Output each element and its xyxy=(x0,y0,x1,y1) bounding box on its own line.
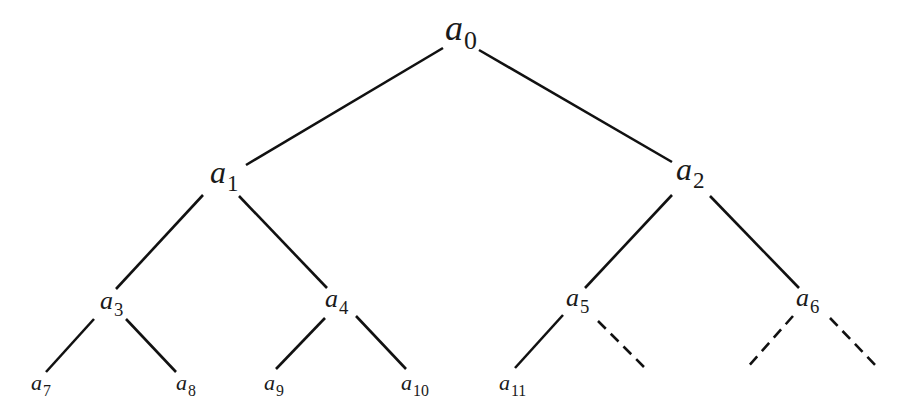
edge-a3-a8 xyxy=(126,319,176,372)
edge-a6-placeholder xyxy=(747,316,793,368)
node-label: a xyxy=(566,283,579,312)
node-subscript: 1 xyxy=(227,170,239,196)
edge-a2-a6 xyxy=(710,196,799,288)
node-a6: a6 xyxy=(796,285,819,311)
node-subscript: 7 xyxy=(43,382,51,399)
node-label: a xyxy=(31,370,42,395)
node-subscript: 4 xyxy=(339,297,348,318)
node-label: a xyxy=(210,154,226,190)
node-a10: a10 xyxy=(401,372,429,394)
edge-a6-placeholder xyxy=(830,318,878,368)
edge-a0-a2 xyxy=(479,50,672,162)
node-label: a xyxy=(401,370,412,395)
node-label: a xyxy=(796,283,809,312)
node-label: a xyxy=(676,151,692,187)
tree-edges xyxy=(0,0,908,416)
edge-a1-a3 xyxy=(116,195,203,289)
node-a5: a5 xyxy=(566,285,589,311)
node-a0: a0 xyxy=(445,10,477,46)
edge-a5-a11 xyxy=(515,315,563,368)
edge-a2-a5 xyxy=(585,195,672,288)
node-subscript: 2 xyxy=(693,167,705,193)
node-label: a xyxy=(499,370,510,395)
edge-a5-placeholder xyxy=(598,321,645,368)
node-subscript: 0 xyxy=(464,26,477,55)
node-subscript: 6 xyxy=(810,296,819,317)
node-subscript: 3 xyxy=(114,299,123,320)
edge-a0-a1 xyxy=(246,48,443,165)
node-subscript: 5 xyxy=(580,296,589,317)
node-label: a xyxy=(445,8,463,48)
node-label: a xyxy=(176,370,187,395)
edge-a3-a7 xyxy=(46,319,94,372)
node-a1: a1 xyxy=(210,156,239,188)
node-label: a xyxy=(264,370,275,395)
node-subscript: 10 xyxy=(413,382,429,399)
node-a4: a4 xyxy=(325,286,348,312)
node-a2: a2 xyxy=(676,153,705,185)
node-subscript: 9 xyxy=(276,382,284,399)
edge-a4-a10 xyxy=(356,316,406,369)
node-a9: a9 xyxy=(264,372,284,394)
edge-a1-a4 xyxy=(239,196,327,288)
node-subscript: 11 xyxy=(511,382,526,399)
node-subscript: 8 xyxy=(188,382,196,399)
node-a11: a11 xyxy=(499,372,526,394)
node-a8: a8 xyxy=(176,372,196,394)
node-label: a xyxy=(325,284,338,313)
node-a3: a3 xyxy=(100,288,123,314)
node-a7: a7 xyxy=(31,372,51,394)
edge-a4-a9 xyxy=(276,318,325,369)
node-label: a xyxy=(100,286,113,315)
